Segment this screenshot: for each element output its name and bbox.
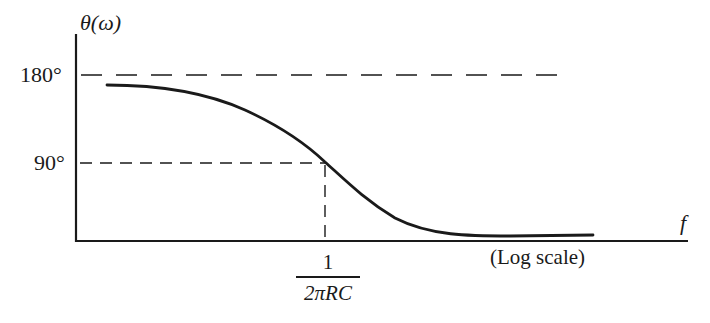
y-tick-90: 90° [34,152,65,174]
log-scale-note: (Log scale) [490,247,585,268]
y-axis-label: θ(ω) [80,12,121,34]
fraction-bar [296,276,360,278]
corner-numerator: 1 [296,250,360,274]
corner-denominator: 2πRC [296,281,360,305]
x-axis-label: f [680,212,686,234]
corner-frequency-label: 1 2πRC [296,250,360,305]
phase-curve [107,85,593,236]
y-tick-180: 180° [20,64,62,86]
